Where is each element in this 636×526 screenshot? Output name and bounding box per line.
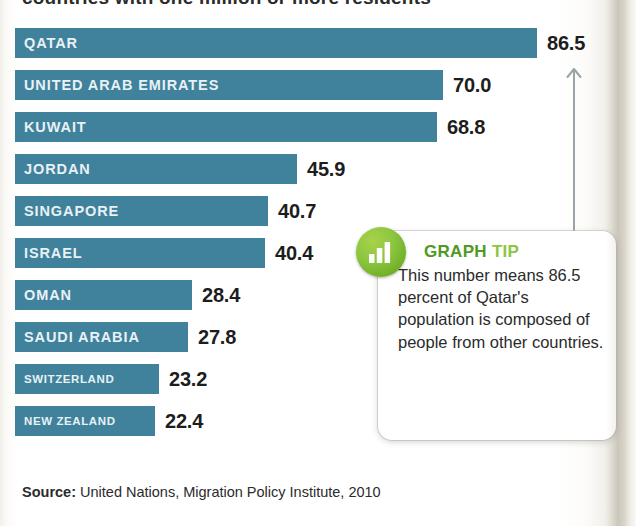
graph-tip-title-word2: TIP [492,242,519,261]
bar-label: QATAR [15,35,78,51]
chart-row-saudi-arabia: SAUDI ARABIA 27.8 [15,322,236,352]
bar-chart-icon [356,227,406,277]
graph-tip-callout: GRAPHTIP This number means 86.5 percent … [378,231,616,440]
chart-row-switzerland: SWITZERLAND 23.2 [15,364,207,394]
bar-value: 40.4 [275,242,313,265]
bar-switzerland: SWITZERLAND [15,364,159,394]
bar-new-zealand: NEW ZEALAND [15,406,155,436]
bar-label: SAUDI ARABIA [15,329,140,345]
graph-tip-title-word1: GRAPH [424,242,487,261]
chart-row-oman: OMAN 28.4 [15,280,240,310]
chart-row-israel: ISRAEL 40.4 [15,238,313,268]
bar-value: 40.7 [278,200,316,223]
infographic-page: countries with one million or more resid… [0,0,636,526]
bar-label: UNITED ARAB EMIRATES [15,77,219,93]
bar-value: 27.8 [198,326,236,349]
bar-kuwait: KUWAIT [15,112,437,142]
bar-label: SWITZERLAND [15,373,114,385]
chart-row-new-zealand: NEW ZEALAND 22.4 [15,406,203,436]
bar-label: SINGAPORE [15,203,119,219]
bar-value: 86.5 [547,32,585,55]
bar-label: NEW ZEALAND [15,415,116,427]
bar-saudi-arabia: SAUDI ARABIA [15,322,188,352]
bar-oman: OMAN [15,280,192,310]
callout-pointer-arrow [566,64,582,236]
bar-jordan: JORDAN [15,154,297,184]
bar-label: JORDAN [15,161,91,177]
bar-value: 45.9 [307,158,345,181]
bar-value: 68.8 [447,116,485,139]
page-title-text: countries with one million or more resid… [22,0,582,9]
chart-row-kuwait: KUWAIT 68.8 [15,112,485,142]
bar-label: ISRAEL [15,245,83,261]
chart-row-united-arab-emirates: UNITED ARAB EMIRATES 70.0 [15,70,491,100]
bar-label: OMAN [15,287,72,303]
bar-value: 70.0 [453,74,491,97]
source-text: United Nations, Migration Policy Institu… [80,484,381,500]
chart-row-singapore: SINGAPORE 40.7 [15,196,316,226]
bar-israel: ISRAEL [15,238,265,268]
graph-tip-body: This number means 86.5 percent of Qatar'… [398,264,604,353]
bar-qatar: QATAR [15,28,537,58]
bar-value: 22.4 [165,410,203,433]
bar-value: 28.4 [202,284,240,307]
source-label: Source: [22,484,76,500]
graph-tip-title: GRAPHTIP [424,241,604,263]
bar-singapore: SINGAPORE [15,196,268,226]
chart-row-qatar: QATAR 86.5 [15,28,585,58]
bar-united-arab-emirates: UNITED ARAB EMIRATES [15,70,443,100]
arrow-up-icon [566,64,582,236]
page-title: countries with one million or more resid… [22,0,582,9]
source-line: Source: United Nations, Migration Policy… [22,484,381,500]
bar-label: KUWAIT [15,119,87,135]
bar-chart-glyph [367,239,395,265]
chart-row-jordan: JORDAN 45.9 [15,154,345,184]
bar-value: 23.2 [169,368,207,391]
